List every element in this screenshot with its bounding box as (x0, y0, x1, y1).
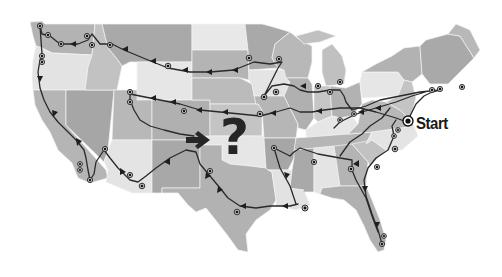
route-stop-icon (45, 32, 50, 37)
route-stop-icon (102, 146, 107, 151)
route-stop-icon (337, 79, 342, 84)
route-stop-icon (257, 111, 263, 117)
route-stop-icon (207, 168, 212, 173)
route-stop-icon (271, 145, 276, 150)
route-stop-icon (459, 84, 464, 89)
route-stop-icon (127, 89, 132, 94)
route-stop-icon (181, 108, 186, 113)
route-stop-icon (382, 234, 387, 239)
route-stop-icon (374, 164, 379, 169)
route-stop-icon (302, 205, 308, 211)
route-stop-icon (261, 94, 267, 100)
route-stop-icon (127, 99, 132, 104)
state-pennsylvania (360, 72, 404, 98)
route-stop-icon (379, 241, 384, 246)
state-north-dakota (192, 24, 248, 50)
route-stop-icon (37, 23, 42, 28)
state-florida (320, 186, 386, 252)
route-stop-icon (392, 146, 398, 152)
route-stop-icon (315, 83, 320, 88)
route-stop-icon (348, 166, 354, 172)
route-stop-icon (352, 112, 357, 117)
route-stop-icon (437, 86, 442, 91)
start-marker-icon (403, 116, 413, 126)
route-stop-icon (84, 33, 89, 38)
route-stop-icon (165, 63, 171, 69)
route-stop-icon (139, 183, 145, 189)
route-stop-icon (39, 53, 44, 58)
state-michigan (322, 44, 346, 86)
route-stop-icon (392, 134, 397, 139)
route-stop-icon (127, 172, 132, 177)
route-stop-icon (311, 159, 316, 164)
route-stop-icon (429, 87, 434, 92)
route-stop-icon (58, 41, 63, 46)
question-mark-icon: ? (220, 112, 249, 162)
route-stop-icon (338, 118, 343, 123)
state-michigan-up (296, 30, 336, 44)
state-south-dakota (192, 50, 249, 80)
state-iowa (249, 70, 290, 96)
us-route-map (0, 0, 502, 277)
route-stop-icon (276, 56, 281, 61)
route-stop-icon (78, 168, 83, 173)
start-label: Start (416, 114, 448, 134)
route-stop-icon (234, 209, 240, 215)
route-stop-icon (107, 42, 112, 47)
route-stop-icon (39, 59, 44, 64)
route-stop-icon (87, 177, 92, 182)
route-stop-icon (89, 42, 94, 47)
state-wyoming (137, 62, 192, 100)
route-stop-icon (78, 162, 83, 167)
route-stop-icon (327, 89, 332, 94)
state-nebraska (192, 78, 256, 104)
route-stop-icon (246, 55, 252, 61)
route-stop-icon (273, 89, 279, 95)
states-layer (30, 21, 480, 252)
route-stop-icon (396, 128, 401, 133)
